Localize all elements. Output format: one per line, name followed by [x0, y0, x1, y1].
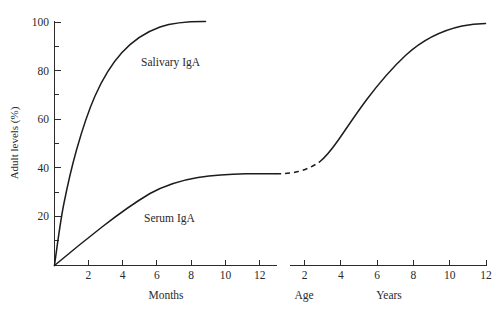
months-tick-label-6: 6 [154, 269, 160, 281]
serum-iga-label: Serum IgA [144, 212, 195, 225]
years-tick-label-10: 10 [444, 269, 456, 281]
months-tick-label-2: 2 [85, 269, 91, 281]
months-tick-label-4: 4 [120, 269, 126, 281]
iga-adult-levels-chart: 100 80 60 40 20 Adult levels (%) 2 4 6 8… [0, 0, 500, 313]
months-axis-title: Months [148, 289, 184, 301]
months-tick-label-8: 8 [188, 269, 194, 281]
years-tick-label-4: 4 [338, 269, 344, 281]
years-tick-label-2: 2 [302, 269, 308, 281]
years-tick-label-8: 8 [411, 269, 417, 281]
y-tick-label-40: 40 [38, 162, 50, 174]
years-tick-label-12: 12 [480, 269, 492, 281]
salivary-iga-label: Salivary IgA [141, 56, 201, 69]
y-tick-label-60: 60 [38, 113, 50, 125]
y-tick-label-20: 20 [38, 210, 50, 222]
months-tick-label-10: 10 [220, 269, 232, 281]
years-axis-title: Years [376, 289, 402, 301]
y-tick-label-80: 80 [38, 65, 50, 77]
years-tick-label-6: 6 [374, 269, 380, 281]
age-axis-title: Age [294, 289, 313, 302]
chart-figure: 100 80 60 40 20 Adult levels (%) 2 4 6 8… [0, 0, 500, 313]
months-tick-label-12: 12 [254, 269, 266, 281]
y-axis-title: Adult levels (%) [8, 106, 21, 179]
y-tick-label-100: 100 [32, 16, 50, 28]
